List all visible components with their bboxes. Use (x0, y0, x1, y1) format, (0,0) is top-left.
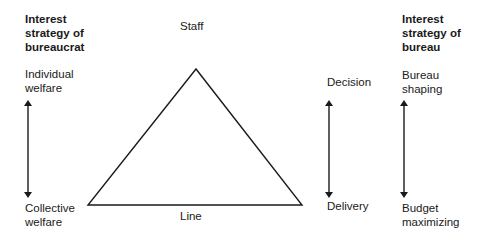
delivery-label: Delivery (327, 199, 369, 213)
individual-welfare-label: Individual welfare (25, 67, 74, 95)
collective-welfare-label: Collective welfare (25, 201, 75, 229)
triangle-shape (88, 69, 302, 205)
line-label: Line (180, 209, 202, 223)
bureau-heading: Interest strategy of bureau (402, 12, 461, 54)
staff-label: Staff (180, 19, 203, 33)
bureaucrat-heading: Interest strategy of bureaucrat (25, 12, 84, 54)
budget-maximizing-label: Budget maximizing (402, 201, 460, 229)
bureau-shaping-label: Bureau shaping (402, 68, 442, 96)
decision-label: Decision (327, 75, 371, 89)
